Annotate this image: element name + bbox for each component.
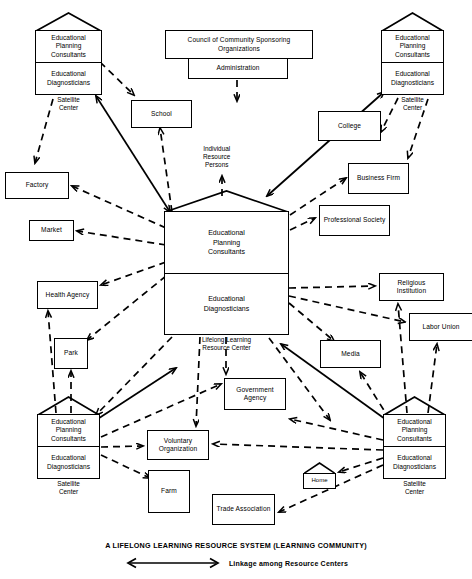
node-council[interactable]: Council of Community Sponsoring Organiza… (165, 30, 313, 59)
satellite-br-roof-icon (383, 396, 446, 416)
link-satellite-br-voluntary (213, 444, 383, 450)
node-labor-union-label: Labor Union (420, 323, 461, 331)
node-religious-institution-label: Religious Institution (380, 279, 443, 296)
node-government-agency[interactable]: Government Agency (224, 378, 286, 410)
node-trade-association[interactable]: Trade Association (212, 494, 275, 525)
node-media[interactable]: Media (320, 340, 381, 368)
node-professional-society-label: Professional Society (322, 216, 388, 224)
label-individual-resource-persons: Individual Resource Persons (203, 145, 230, 169)
satellite-tr-roof-icon (381, 12, 444, 32)
node-council-label: Council of Community Sponsoring Organiza… (166, 36, 312, 53)
node-government-agency-label: Government Agency (225, 386, 285, 403)
link-center-religious (289, 286, 375, 288)
node-voluntary-organization-label: Voluntary Organization (148, 437, 208, 454)
center-diagnosticians-cell: Educational Diagnosticians (165, 274, 288, 335)
satellite-center-top-left[interactable]: Educational Planning Consultants Educati… (35, 12, 102, 95)
link-center-market (77, 231, 166, 245)
satellite-center-bottom-right[interactable]: Educational Planning Consultants Educati… (383, 396, 446, 479)
link-satellite-br-govagency (290, 419, 383, 440)
node-market-label: Market (39, 226, 64, 234)
center-planning-consultants-label: Educational Planning Consultants (208, 228, 245, 256)
link-center-factory (72, 186, 166, 228)
link-center-health (101, 262, 166, 285)
node-college-label: College (336, 122, 363, 130)
node-farm[interactable]: Farm (148, 470, 190, 513)
figure-title: A LIFELONG LEARNING RESOURCE SYSTEM (LEA… (0, 541, 472, 550)
node-voluntary-organization[interactable]: Voluntary Organization (147, 430, 209, 460)
link-center-professional (290, 218, 315, 230)
center-body: Educational Planning Consultants Educati… (164, 211, 289, 335)
satellite-tr-body: Educational Planning Consultants Educati… (381, 30, 444, 95)
satellite-bl-diagnosticians-cell: Educational Diagnosticians (38, 447, 99, 478)
node-school-label: School (149, 110, 174, 118)
node-business-firm[interactable]: Business Firm (348, 163, 409, 194)
node-factory-label: Factory (24, 181, 51, 189)
linkage-center-satellite-bl (90, 368, 176, 424)
satellite-tr-caption: Satellite Center (401, 96, 424, 112)
center-caption: Lifelong Learning Resource Center (202, 336, 251, 352)
node-health-agency-label: Health Agency (44, 291, 92, 299)
satellite-br-body: Educational Planning Consultants Educati… (383, 414, 446, 479)
figure-caption: A LIFELONG LEARNING RESOURCE SYSTEM (LEA… (0, 541, 472, 569)
double-headed-arrow-icon (124, 557, 222, 569)
node-business-firm-label: Business Firm (355, 174, 402, 182)
node-park-label: Park (62, 349, 80, 357)
satellite-tr-planning-cell: Educational Planning Consultants (382, 31, 443, 63)
satellite-tl-roof-icon (35, 12, 102, 32)
satellite-br-caption: Satellite Center (403, 480, 426, 496)
satellite-bl-planning-cell: Educational Planning Consultants (38, 415, 99, 447)
satellite-tl-diagnosticians-cell: Educational Diagnosticians (36, 63, 101, 94)
node-factory[interactable]: Factory (5, 172, 69, 199)
node-religious-institution[interactable]: Religious Institution (379, 273, 444, 301)
satellite-center-top-right[interactable]: Educational Planning Consultants Educati… (381, 12, 444, 95)
link-satellite-tl-factory (35, 99, 53, 163)
link-center-media (289, 303, 334, 341)
node-labor-union[interactable]: Labor Union (409, 313, 472, 341)
link-center-satellite-bl (96, 337, 172, 415)
satellite-tl-planning-cell: Educational Planning Consultants (36, 31, 101, 63)
satellite-tl-body: Educational Planning Consultants Educati… (35, 30, 102, 95)
node-health-agency[interactable]: Health Agency (37, 281, 98, 309)
satellite-br-planning-cell: Educational Planning Consultants (384, 415, 445, 447)
link-satellite-tr-college (381, 98, 398, 132)
center-diagnosticians-label: Educational Diagnosticians (204, 294, 250, 313)
node-home[interactable]: Home (303, 462, 336, 489)
link-satellite-bl-farm (101, 455, 150, 478)
node-market[interactable]: Market (29, 220, 74, 241)
satellite-bl-caption: Satellite Center (57, 480, 80, 496)
diagram-canvas: Council of Community Sponsoring Organiza… (0, 0, 472, 579)
satellite-center-bottom-left[interactable]: Educational Planning Consultants Educati… (37, 396, 100, 479)
home-body: Home (303, 473, 336, 489)
legend: Linkage among Resource Centers (0, 557, 472, 569)
node-school[interactable]: School (131, 100, 192, 128)
legend-label: Linkage among Resource Centers (229, 560, 348, 567)
node-administration[interactable]: Administration (188, 58, 288, 79)
link-satellite-bl-voluntary (101, 446, 143, 447)
node-farm-label: Farm (159, 487, 179, 495)
node-professional-society[interactable]: Professional Society (319, 205, 390, 236)
link-satellite-br-home (339, 458, 383, 472)
satellite-tl-caption: Satellite Center (57, 96, 80, 112)
link-satellite-tl-school (100, 62, 134, 95)
node-trade-association-label: Trade Association (215, 505, 273, 513)
satellite-bl-body: Educational Planning Consultants Educati… (37, 414, 100, 479)
lifelong-learning-resource-center[interactable]: Educational Planning Consultants Educati… (164, 190, 289, 335)
node-administration-label: Administration (214, 64, 261, 72)
node-park[interactable]: Park (54, 338, 88, 369)
link-center-park (87, 276, 166, 340)
link-center-voluntary (196, 337, 200, 426)
node-college[interactable]: College (318, 111, 381, 141)
node-media-label: Media (339, 350, 361, 358)
center-planning-consultants-cell: Educational Planning Consultants (165, 212, 288, 274)
satellite-br-diagnosticians-cell: Educational Diagnosticians (384, 447, 445, 478)
satellite-bl-roof-icon (37, 396, 100, 416)
node-home-label: Home (311, 477, 327, 485)
center-roof-icon (164, 190, 289, 213)
satellite-tr-diagnosticians-cell: Educational Diagnosticians (382, 63, 443, 94)
